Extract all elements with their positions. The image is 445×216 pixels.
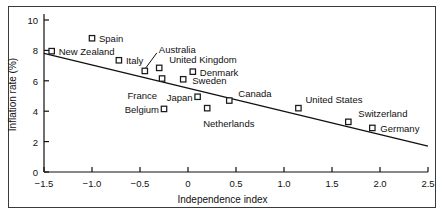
point-label-canada: Canada bbox=[238, 87, 271, 98]
label-leader-lines bbox=[146, 53, 157, 68]
point-label-new-zealand: New Zealand bbox=[59, 46, 115, 57]
point-label-sweden: Sweden bbox=[192, 75, 226, 86]
x-tick-label: −0.5 bbox=[131, 178, 150, 189]
data-marker bbox=[195, 94, 200, 99]
point-label-spain: Spain bbox=[99, 33, 123, 44]
data-marker bbox=[227, 98, 232, 103]
x-tick-label: −1.5 bbox=[35, 178, 54, 189]
x-tick-label: 2.5 bbox=[421, 178, 434, 189]
point-label-netherlands: Netherlands bbox=[203, 118, 254, 129]
point-label-switzerland: Switzerland bbox=[358, 107, 407, 118]
data-marker bbox=[116, 58, 121, 63]
x-axis-title: Independence index bbox=[0, 194, 445, 205]
x-tick-label: 1.5 bbox=[325, 178, 338, 189]
point-label-france: France bbox=[128, 89, 158, 100]
data-marker bbox=[181, 77, 186, 82]
y-tick-label: 8 bbox=[16, 45, 38, 56]
y-tick-label: 10 bbox=[16, 15, 38, 26]
x-tick-label: 0 bbox=[185, 178, 190, 189]
inflation-independence-figure: −1.5−1.0−0.500.51.01.52.02.5 0246810 New… bbox=[0, 0, 445, 216]
y-axis-title: Inflation rate (%) bbox=[7, 45, 18, 145]
point-label-germany: Germany bbox=[380, 122, 419, 133]
data-marker bbox=[49, 48, 54, 53]
x-tick-label: −1.0 bbox=[83, 178, 102, 189]
point-label-belgium: Belgium bbox=[125, 103, 159, 114]
x-tick-label: 0.5 bbox=[229, 178, 242, 189]
data-marker bbox=[370, 125, 375, 130]
data-marker bbox=[346, 119, 351, 124]
data-marker bbox=[159, 76, 164, 81]
label-leader-line bbox=[146, 53, 157, 68]
data-marker bbox=[142, 68, 147, 73]
data-marker bbox=[89, 36, 94, 41]
data-marker bbox=[161, 106, 166, 111]
y-tick-label: 2 bbox=[16, 136, 38, 147]
data-marker bbox=[296, 105, 301, 110]
data-marker bbox=[190, 69, 195, 74]
x-tick-label: 2.0 bbox=[373, 178, 386, 189]
data-marker bbox=[157, 65, 162, 70]
point-label-united-kingdom: United Kingdom bbox=[169, 53, 237, 64]
y-tick-label: 4 bbox=[16, 106, 38, 117]
point-label-japan: Japan bbox=[167, 91, 193, 102]
data-marker bbox=[205, 105, 210, 110]
point-label-italy: Italy bbox=[126, 55, 143, 66]
y-tick-label: 0 bbox=[16, 167, 38, 178]
point-label-united-states: United States bbox=[305, 94, 362, 105]
x-tick-label: 1.0 bbox=[277, 178, 290, 189]
y-tick-label: 6 bbox=[16, 75, 38, 86]
